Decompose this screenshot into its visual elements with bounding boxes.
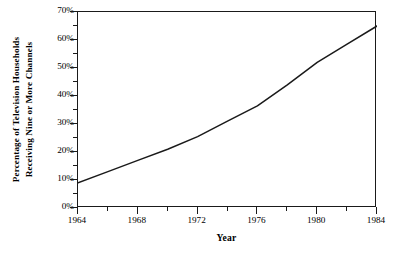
x-axis-tick-label: 1976: [236, 215, 276, 225]
y-axis-tick-major: [70, 39, 77, 40]
y-axis-tick-major: [70, 67, 77, 68]
plot-area: [77, 11, 376, 207]
x-axis-tick-label: 1984: [356, 215, 396, 225]
x-axis-tick-label: 1968: [117, 215, 157, 225]
y-axis-title: Percentage of Television Households Rece…: [0, 0, 46, 218]
y-axis-title-line-1: Percentage of Television Households: [11, 36, 24, 181]
x-axis-tick-major: [197, 207, 198, 214]
y-axis-title-line-2: Receiving Nine or More Channels: [23, 36, 36, 181]
x-axis-tick-major: [137, 207, 138, 214]
y-axis-tick-major: [70, 179, 77, 180]
y-axis-tick-major: [70, 151, 77, 152]
x-axis-title: Year: [77, 232, 376, 243]
data-series-line: [78, 26, 377, 183]
x-axis-tick-label: 1964: [57, 215, 97, 225]
x-axis-tick-label: 1972: [177, 215, 217, 225]
x-axis-tick-major: [256, 207, 257, 214]
data-line-svg: [78, 12, 377, 208]
chart-figure: Percentage of Television Households Rece…: [0, 0, 397, 255]
x-axis-tick-major: [316, 207, 317, 214]
y-axis-tick-major: [70, 123, 77, 124]
y-axis-tick-major: [70, 11, 77, 12]
x-axis-tick-major: [77, 207, 78, 214]
x-axis-tick-major: [376, 207, 377, 214]
y-axis-tick-major: [70, 95, 77, 96]
x-axis-tick-label: 1980: [296, 215, 336, 225]
y-axis-tick-major: [70, 207, 77, 208]
